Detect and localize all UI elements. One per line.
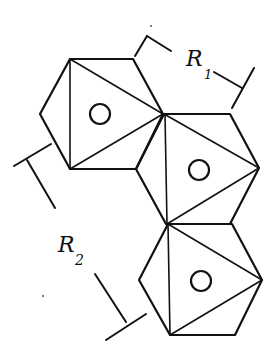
r1-subscript: 1 xyxy=(204,67,212,82)
r1-label: R xyxy=(185,46,203,71)
speck xyxy=(150,25,152,27)
center-circle-2 xyxy=(189,160,209,180)
hexagon-3 xyxy=(139,224,262,335)
dimension-r2: R 2 xyxy=(14,144,146,340)
hexagon-2 xyxy=(136,114,259,224)
hexagon-diagram: R 1 R 2 xyxy=(0,0,271,356)
speck xyxy=(42,295,44,297)
r2-subscript: 2 xyxy=(74,252,84,268)
center-circle-3 xyxy=(191,271,211,291)
center-circle-1 xyxy=(90,104,110,124)
r2-label: R xyxy=(57,232,75,257)
